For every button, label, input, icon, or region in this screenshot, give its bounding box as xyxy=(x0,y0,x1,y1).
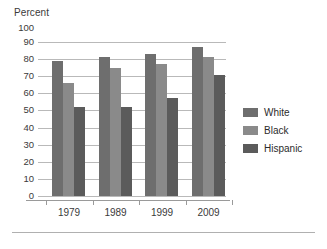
bar xyxy=(156,64,167,196)
legend-label: White xyxy=(264,107,290,118)
legend-item: White xyxy=(243,104,325,120)
bar xyxy=(167,98,178,196)
bar-chart-figure: Percent 1009080706050403020100 197919891… xyxy=(0,0,327,249)
y-tick-label: 100 xyxy=(8,23,34,33)
bar xyxy=(145,54,156,196)
x-tick-label: 1979 xyxy=(46,207,92,218)
bar-group xyxy=(99,42,144,196)
x-tick-label: 2009 xyxy=(186,207,232,218)
x-tick xyxy=(139,200,140,205)
bar xyxy=(52,61,63,196)
legend-swatch xyxy=(243,108,258,117)
bar xyxy=(192,47,203,196)
bar-groups xyxy=(38,42,226,196)
legend-label: Hispanic xyxy=(264,143,302,154)
bar-group xyxy=(145,42,190,196)
x-tick xyxy=(93,200,94,205)
plot-area xyxy=(38,42,226,196)
x-tick xyxy=(46,200,47,205)
y-tick-label: 20 xyxy=(8,157,34,167)
y-tick-label: 50 xyxy=(8,105,34,115)
y-tick-label: 30 xyxy=(8,140,34,150)
x-axis-line xyxy=(26,200,230,201)
legend-item: Black xyxy=(243,122,325,138)
bar xyxy=(99,57,110,196)
legend-swatch xyxy=(243,144,258,153)
y-tick-label: 90 xyxy=(8,37,34,47)
x-tick xyxy=(232,200,233,205)
bottom-divider xyxy=(12,232,315,233)
chart-legend: WhiteBlackHispanic xyxy=(243,104,325,158)
y-tick-label: 40 xyxy=(8,123,34,133)
y-axis-title: Percent xyxy=(14,7,49,18)
legend-item: Hispanic xyxy=(243,140,325,156)
bar xyxy=(121,107,132,196)
x-tick-label: 1989 xyxy=(93,207,139,218)
y-tick-label: 10 xyxy=(8,174,34,184)
bar-group xyxy=(52,42,97,196)
x-tick xyxy=(186,200,187,205)
x-tick-label: 1999 xyxy=(139,207,185,218)
legend-label: Black xyxy=(264,125,288,136)
bar xyxy=(63,83,74,196)
y-tick-label: 80 xyxy=(8,54,34,64)
gridline xyxy=(38,196,226,197)
y-tick-label: 60 xyxy=(8,88,34,98)
bar xyxy=(203,57,214,196)
bar xyxy=(110,68,121,196)
y-tick-label: 70 xyxy=(8,71,34,81)
bar xyxy=(74,107,85,196)
legend-swatch xyxy=(243,126,258,135)
bar-group xyxy=(192,42,237,196)
bar xyxy=(214,75,225,196)
